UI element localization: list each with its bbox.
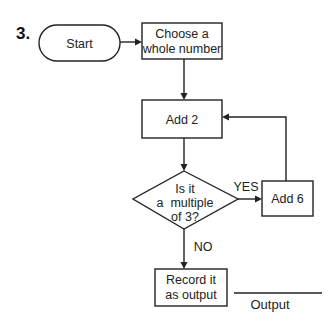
- arrowhead-icon: [181, 164, 188, 171]
- decision-node: Is it a multiple of 3?: [133, 171, 238, 229]
- record-label-line1: Record it: [166, 273, 217, 287]
- arrow-loop-add6-to-add2: [222, 114, 286, 182]
- add6-label: Add 6: [271, 192, 304, 206]
- add2-label: Add 2: [166, 113, 199, 127]
- problem-number: 3.: [16, 24, 30, 43]
- arrow-no-to-record: NO: [181, 229, 213, 269]
- arrowhead-icon: [222, 114, 229, 121]
- arrowhead-icon: [255, 196, 262, 203]
- add6-node: Add 6: [262, 181, 313, 216]
- arrow-start-to-choose: [120, 39, 142, 46]
- choose-label-line1: Choose a: [155, 27, 209, 41]
- record-label-line2: as output: [165, 288, 217, 302]
- decision-label-line3: of 3?: [171, 210, 199, 224]
- arrowhead-icon: [135, 39, 142, 46]
- start-label: Start: [66, 37, 93, 51]
- output-label: Output: [250, 297, 289, 312]
- no-label: NO: [194, 240, 213, 254]
- choose-number-node: Choose a whole number: [142, 23, 222, 59]
- output-answer-blank[interactable]: Output: [234, 293, 322, 312]
- decision-label-line1: Is it: [175, 182, 195, 196]
- start-node: Start: [39, 25, 120, 61]
- arrowhead-icon: [181, 93, 188, 100]
- choose-label-line2: whole number: [142, 42, 222, 56]
- flowchart: 3. Start Choose a whole number Add 2 Is …: [0, 0, 335, 328]
- decision-label-line2: a multiple: [157, 196, 214, 210]
- record-output-node: Record it as output: [155, 269, 227, 306]
- arrow-add2-to-decision: [181, 138, 188, 171]
- arrow-choose-to-add2: [181, 59, 188, 100]
- arrowhead-icon: [181, 262, 188, 269]
- add2-node: Add 2: [142, 100, 222, 138]
- yes-label: YES: [233, 180, 258, 194]
